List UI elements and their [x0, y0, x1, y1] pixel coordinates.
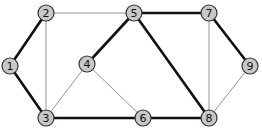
edge-4-5: [87, 13, 134, 64]
node-8: 8: [201, 110, 217, 126]
node-label: 5: [131, 7, 138, 20]
edge-7-9: [209, 13, 250, 66]
node-label: 4: [84, 58, 91, 71]
node-label: 3: [43, 112, 50, 125]
node-label: 6: [140, 112, 147, 125]
node-1: 1: [2, 58, 18, 74]
node-label: 9: [247, 60, 254, 73]
node-label: 1: [7, 60, 14, 73]
edge-3-4: [46, 64, 87, 118]
node-4: 4: [79, 56, 95, 72]
node-2: 2: [38, 5, 54, 21]
node-9: 9: [242, 58, 258, 74]
edge-5-8: [134, 13, 209, 118]
node-3: 3: [38, 110, 54, 126]
node-6: 6: [135, 110, 151, 126]
graph-diagram: 123456789: [0, 0, 262, 133]
node-7: 7: [201, 5, 217, 21]
node-label: 2: [43, 7, 50, 20]
node-5: 5: [126, 5, 142, 21]
edge-4-6: [87, 64, 143, 118]
edge-1-2: [10, 13, 46, 66]
edge-8-9: [209, 66, 250, 118]
node-label: 8: [206, 112, 213, 125]
edges-group: [10, 13, 250, 118]
edge-1-3: [10, 66, 46, 118]
node-label: 7: [206, 7, 213, 20]
